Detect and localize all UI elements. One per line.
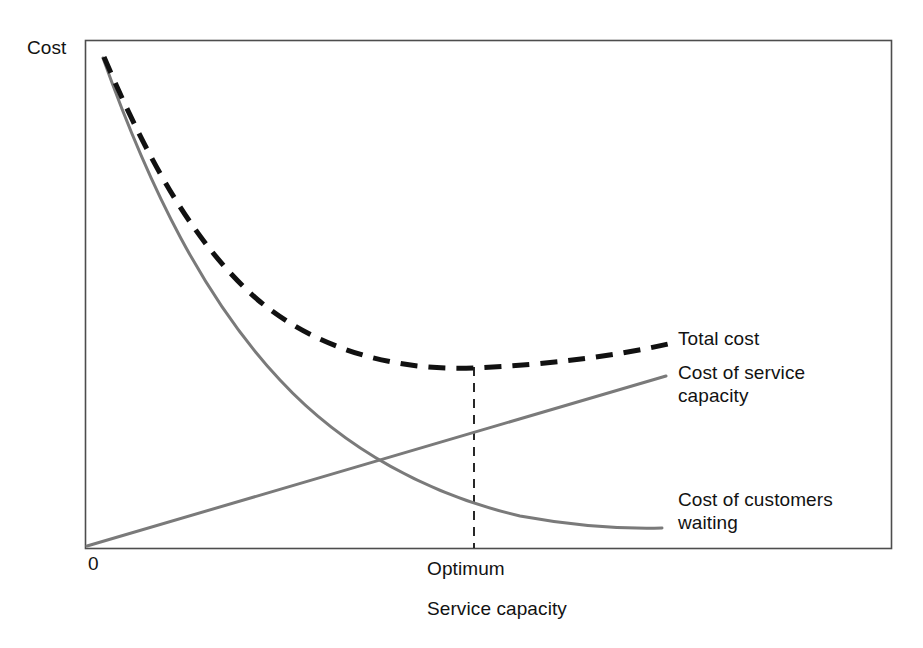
legend-label-service-capacity: Cost of service capacity [678,361,805,407]
figure-root: Cost 0 Optimum Service capacity Total co… [0,0,923,648]
y-axis-label: Cost [27,36,66,59]
series-total-cost [104,57,668,368]
optimum-tick-label: Optimum [427,557,505,580]
series-service-capacity [87,376,666,546]
chart-canvas [0,0,923,648]
origin-tick-label: 0 [88,552,99,575]
plot-frame [86,41,892,549]
legend-label-customers-waiting: Cost of customers waiting [678,488,833,534]
x-axis-label: Service capacity [427,597,567,620]
legend-label-total-cost: Total cost [678,327,759,350]
